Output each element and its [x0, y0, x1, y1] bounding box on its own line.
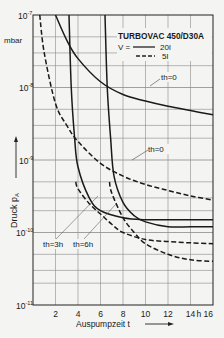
x-tick-label: 14 [186, 309, 196, 319]
y-tick-1e-9: 10-9 [19, 155, 33, 166]
annotation-th3h: th=3h [43, 240, 63, 249]
x-tick-label: h 16 [196, 309, 213, 319]
annotation-th0-dashed: th=0 [148, 145, 164, 154]
annotations: th=0 th=0 th=3h th=6h [42, 72, 184, 249]
x-tick-label: 2 [53, 309, 58, 319]
legend-dashed-label: 5l [162, 52, 168, 61]
y-axis-labels: 10-7 mbar 10-8 10-9 10-10 10-11 Druck pA [4, 10, 33, 311]
legend-prefix: V = [118, 43, 131, 52]
annotation-th0-solid: th=0 [161, 73, 177, 82]
x-tick-label: 6 [98, 309, 103, 319]
x-tick-label: 10 [141, 309, 151, 319]
y-tick-1e-8: 10-8 [19, 82, 33, 93]
pump-down-chart: 10-7 mbar 10-8 10-9 10-10 10-11 Druck pA… [0, 0, 224, 338]
x-arrow-head [168, 322, 174, 326]
x-tick-label: 4 [76, 309, 81, 319]
svg-text:Druck pA: Druck pA [9, 193, 20, 228]
y-unit-label: mbar [4, 36, 23, 45]
y-axis-title: Druck pA [9, 193, 20, 228]
y-tick-1e-7: 10-7 [18, 10, 32, 21]
x-tick-label: 12 [163, 309, 173, 319]
legend-solid-label: 20l [160, 43, 171, 52]
y-arrow-head [14, 136, 18, 142]
x-tick-label: 8 [121, 309, 126, 319]
y-tick-1e-11: 10-11 [16, 300, 33, 311]
annotation-th6h: th=6h [73, 240, 93, 249]
curve-v-5l-th-3h [76, 182, 213, 244]
x-axis-labels: 2468101214h 16 [53, 309, 213, 319]
chart-title: TURBOVAC 450/D30A [118, 31, 204, 41]
x-axis-title: Auspumpzeit t [76, 319, 130, 329]
curve-v-5l-th-6h [110, 182, 214, 262]
